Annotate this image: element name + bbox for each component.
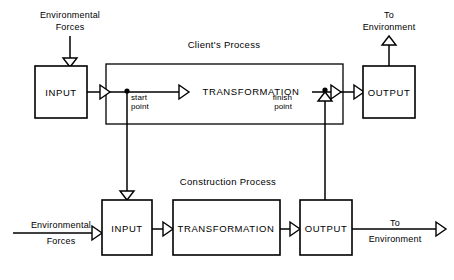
top-to-environment-label-line2: Environment [363,22,416,32]
diagram-canvas: Environmental Forces Client's Process IN… [0,0,454,280]
client-input-to-start-arrow-head [100,85,110,99]
bottom-env-forces-arrow-head [92,226,102,240]
start-point-label-line1: start [131,93,148,102]
top-to-environment-label-line1: To [384,10,394,20]
client-input-label: INPUT [45,87,77,98]
finish-point-label-line1: finish [273,93,292,102]
start-to-transformation-arrow-head [179,85,189,99]
bottom-to-environment-label-line1: To [390,218,400,228]
construction-output-label: OUTPUT [305,223,348,234]
finish-point-label-line2: point [274,102,293,111]
client-output-to-environment-arrow-head [382,36,396,45]
construction-input-label: INPUT [111,223,143,234]
clients-process-title: Client's Process [188,39,261,50]
start-point-down-arrow-head [120,191,134,200]
process-flow-diagram: Environmental Forces Client's Process IN… [0,0,454,280]
bottom-environmental-forces-label-line2: Forces [47,236,76,246]
construction-output-to-finish-arrow-head [318,92,332,101]
client-output-label: OUTPUT [368,87,411,98]
top-environmental-forces-label-line1: Environmental [40,10,100,20]
finish-to-client-output-arrow-head-inner [331,85,341,99]
top-environmental-forces-label-line2: Forces [56,22,85,32]
construction-process-title: Construction Process [180,176,276,187]
start-point-label-line2: point [131,102,150,111]
bottom-to-environment-label-line2: Environment [369,234,422,244]
construction-transformation-label: TRANSFORMATION [178,223,275,234]
construction-output-to-environment-arrow-head [436,222,446,236]
construction-input-to-transformation-arrow-head [163,222,173,236]
construction-transformation-to-output-arrow-head [290,222,300,236]
bottom-environmental-forces-label-line1: Environmental [31,220,91,230]
